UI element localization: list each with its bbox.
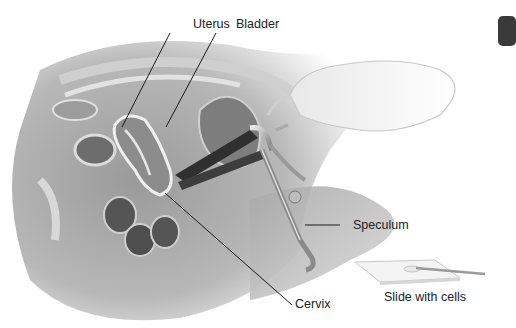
label-bladder: Bladder — [236, 18, 279, 31]
intestine-loop — [75, 135, 115, 165]
label-speculum: Speculum — [353, 219, 409, 232]
label-slide-with-cells: Slide with cells — [384, 291, 466, 304]
page-edge-tab — [498, 16, 516, 46]
label-uterus: Uterus — [193, 18, 230, 31]
slide-with-cells-illustration — [355, 260, 485, 285]
gloved-hand — [290, 61, 455, 131]
thigh — [250, 186, 395, 300]
label-cervix: Cervix — [295, 298, 330, 311]
